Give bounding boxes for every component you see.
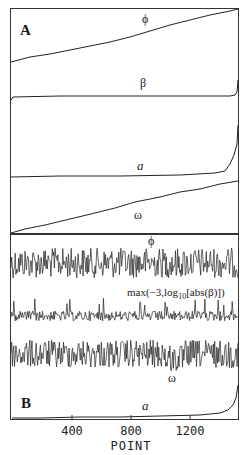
trace-b-omega: [11, 340, 238, 371]
trace-a-beta: [11, 80, 238, 100]
x-tick-label-800: 800: [120, 424, 142, 438]
formula-prefix: max(−3,log: [127, 286, 178, 298]
formula-subscript: 10: [178, 292, 186, 301]
trace-a-omega: [11, 181, 238, 233]
label-a-beta: β: [140, 76, 146, 91]
figure-canvas: [0, 0, 249, 455]
label-a-phi: ϕ: [142, 12, 148, 27]
panel-a-frame: [11, 9, 239, 234]
x-tick-label-400: 400: [61, 424, 83, 438]
trace-b-phi: [11, 248, 238, 278]
trace-a-a: [11, 125, 238, 177]
trace-b-a: [12, 385, 238, 418]
formula-suffix: [abs(β)]): [186, 286, 225, 298]
label-a-omega: ω: [134, 208, 142, 223]
label-b-log-beta: max(−3,log10[abs(β)]): [127, 286, 225, 301]
panel-label-a: A: [20, 22, 31, 39]
panel-label-b: B: [21, 395, 31, 412]
label-a-a: a: [137, 158, 144, 174]
trace-a-phi: [11, 9, 238, 62]
trace-b-log-beta: [11, 298, 238, 321]
label-b-phi: ϕ: [148, 234, 154, 249]
label-b-a: a: [142, 398, 149, 414]
x-axis-title: POINT: [110, 439, 151, 453]
x-tick-label-1200: 1200: [176, 424, 205, 438]
label-b-omega: ω: [168, 371, 176, 386]
